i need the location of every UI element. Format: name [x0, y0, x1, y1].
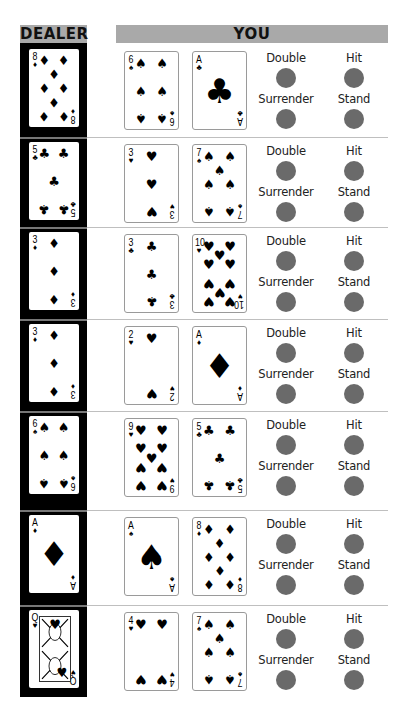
diamond-icon: ♦ — [47, 265, 61, 278]
stand-button[interactable] — [344, 109, 364, 129]
card-rank: A — [236, 117, 244, 127]
diamond-icon: ♦ — [47, 68, 61, 81]
card-pips: ♠ — [135, 524, 168, 589]
dealer-separator — [20, 411, 87, 413]
spade-icon: ♠ — [223, 204, 237, 217]
double-button[interactable] — [276, 435, 296, 455]
hit-button[interactable] — [344, 161, 364, 181]
card-rank: A — [236, 392, 244, 402]
card-index-bottom: A♦ — [68, 573, 78, 591]
surrender-button[interactable] — [276, 670, 296, 690]
stand-button[interactable] — [344, 670, 364, 690]
surrender-button[interactable] — [276, 202, 296, 222]
diamond-icon: ♦ — [223, 577, 237, 590]
club-icon: ♣ — [213, 451, 227, 464]
hit-button[interactable] — [344, 435, 364, 455]
spade-icon: ♠ — [57, 476, 71, 489]
card-pips: ♠♠♠♠♠♠♠ — [203, 619, 236, 684]
card-rank: 7 — [236, 678, 244, 688]
heart-icon: ♥ — [155, 424, 169, 437]
card-pips: ♥♥♥♥ — [135, 619, 168, 684]
player-card: 6♠6♠♠♠♠♠♠♠ — [124, 51, 179, 130]
player-card: 4♥4♥♥♥♥♥ — [124, 612, 179, 691]
dealer-separator — [20, 137, 87, 139]
surrender-label: Surrender — [258, 275, 313, 289]
club-icon: ♣ — [223, 424, 237, 437]
spade-icon: ♠ — [202, 150, 216, 163]
heart-icon: ♥ — [145, 386, 159, 399]
card-rank: A — [195, 329, 203, 339]
surrender-label: Surrender — [258, 558, 313, 572]
hit-button[interactable] — [344, 629, 364, 649]
diamond-icon: ♦ — [47, 95, 61, 108]
double-button[interactable] — [276, 161, 296, 181]
card-rank: 3 — [127, 147, 135, 157]
diamond-icon: ♦ — [202, 550, 216, 563]
hit-button[interactable] — [344, 251, 364, 271]
hearts-icon: ♥ — [48, 618, 62, 631]
surrender-button[interactable] — [276, 292, 296, 312]
double-button[interactable] — [276, 251, 296, 271]
player-card: A♣A♣♣ — [192, 51, 247, 130]
diamond-icon: ♦ — [47, 357, 61, 370]
card-pips: ♠♠♠♠♠♠♠ — [203, 151, 236, 216]
club-icon: ♣ — [37, 202, 51, 215]
stand-label: Stand — [338, 367, 370, 381]
card-pips: ♥♥ — [135, 333, 168, 398]
card-rank: 3 — [168, 300, 176, 310]
dealer-header: DEALER — [20, 25, 87, 43]
heart-icon: ♥ — [145, 177, 159, 190]
surrender-button[interactable] — [276, 109, 296, 129]
club-icon: ♣ — [145, 294, 159, 307]
double-button[interactable] — [276, 629, 296, 649]
card-rank: 6 — [168, 117, 176, 127]
hit-button[interactable] — [344, 343, 364, 363]
hit-button[interactable] — [344, 534, 364, 554]
card-rank: 3 — [69, 298, 77, 308]
spade-icon: ♠ — [202, 645, 216, 658]
double-label: Double — [266, 612, 306, 626]
hit-label: Hit — [346, 418, 362, 432]
card-pips: ♣♣♣♣♣ — [203, 425, 236, 490]
spade-icon: ♠ — [37, 476, 51, 489]
dealer-card: A♦A♦♦ — [29, 515, 79, 593]
spade-icon: ♠ — [223, 177, 237, 190]
spade-icon: ♠ — [202, 618, 216, 631]
diamond-icon: ♦ — [36, 537, 72, 571]
card-index-bottom: 2♥ — [167, 384, 177, 402]
stand-button[interactable] — [344, 384, 364, 404]
card-pips: ♣ — [203, 58, 236, 123]
card-rank: 8 — [236, 583, 244, 593]
card-index-bottom: A♦ — [235, 384, 245, 402]
svg-text:♥: ♥ — [57, 664, 68, 679]
card-pips: ♥♥♥ — [135, 151, 168, 216]
surrender-button[interactable] — [276, 575, 296, 595]
hit-button[interactable] — [344, 68, 364, 88]
surrender-button[interactable] — [276, 476, 296, 496]
double-label: Double — [266, 326, 306, 340]
surrender-label: Surrender — [258, 653, 313, 667]
spade-icon: ♠ — [57, 421, 71, 434]
spade-icon: ♠ — [134, 84, 148, 97]
double-label: Double — [266, 144, 306, 158]
club-icon: ♣ — [202, 478, 216, 491]
stand-button[interactable] — [344, 202, 364, 222]
card-rank: 2 — [168, 392, 176, 402]
club-icon: ♣ — [145, 267, 159, 280]
hit-label: Hit — [346, 144, 362, 158]
you-header: YOU — [116, 25, 388, 43]
stand-button[interactable] — [344, 476, 364, 496]
card-rank: A — [127, 520, 135, 530]
double-button[interactable] — [276, 68, 296, 88]
spade-icon: ♠ — [134, 111, 148, 124]
stand-button[interactable] — [344, 292, 364, 312]
diamond-icon: ♦ — [202, 523, 216, 536]
stand-button[interactable] — [344, 575, 364, 595]
club-icon: ♣ — [202, 424, 216, 437]
double-button[interactable] — [276, 534, 296, 554]
diamond-icon: ♦ — [47, 292, 61, 305]
surrender-button[interactable] — [276, 384, 296, 404]
stand-label: Stand — [338, 185, 370, 199]
double-button[interactable] — [276, 343, 296, 363]
diamond-icon: ♦ — [47, 329, 61, 342]
